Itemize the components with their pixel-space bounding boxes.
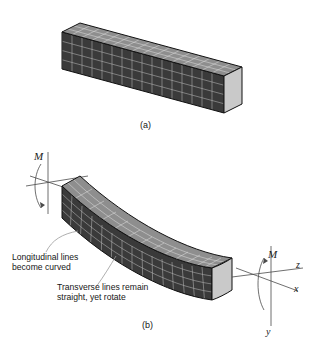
transverse-annotation-line1: Transverse lines remain [57,282,148,292]
axis-label-y: y [265,326,271,337]
left-moment-label: M [33,150,44,162]
transverse-annotation-line2: straight, yet rotate [57,292,126,302]
bent-beam-panel: M [0,0,316,343]
axis-label-x: x [293,283,299,294]
caption-b: (b) [142,320,153,330]
right-moment-label: M [267,248,278,260]
longitudinal-annotation-line1: Longitudinal lines [12,252,78,262]
longitudinal-annotation-line2: become curved [12,262,71,272]
axis-label-z: z [295,259,300,270]
bending-deformation-figure: (a) M [0,0,316,343]
